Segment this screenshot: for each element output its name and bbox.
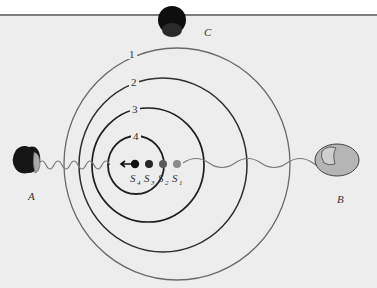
svg-text:S: S (130, 172, 136, 184)
source-label-s1: S 1 (172, 172, 183, 187)
wavefront-label-3: 3 (132, 103, 138, 115)
observer-a-head-icon (13, 146, 41, 173)
observer-c-head-icon (158, 6, 186, 37)
svg-text:2: 2 (165, 179, 169, 187)
wave-to-A (38, 161, 110, 169)
wavefront-label-2: 2 (131, 76, 137, 88)
source-label-s3: S 3 (144, 172, 155, 187)
diagram-canvas: 1 2 3 4 S 4 S 3 S 2 S 1 (0, 0, 377, 288)
wavefront-label-1: 1 (129, 48, 135, 60)
observer-a-label: A (27, 190, 35, 202)
source-label-s4: S 4 (130, 172, 141, 187)
svg-text:3: 3 (150, 179, 155, 187)
source-dot-s1 (173, 160, 181, 168)
doppler-diagram: 1 2 3 4 S 4 S 3 S 2 S 1 (0, 0, 377, 288)
source-dot-s2 (159, 160, 167, 168)
observer-b-label: B (337, 193, 344, 205)
svg-text:S: S (158, 172, 164, 184)
wavefront-label-4: 4 (133, 130, 139, 142)
observer-c-label: C (204, 26, 212, 38)
svg-text:S: S (144, 172, 150, 184)
source-dot-s4 (131, 160, 139, 168)
motion-arrow-icon (121, 161, 131, 167)
svg-text:4: 4 (137, 179, 141, 187)
svg-text:S: S (172, 172, 178, 184)
observer-b-head-icon (315, 144, 359, 176)
source-dot-s3 (145, 160, 153, 168)
svg-text:1: 1 (179, 179, 183, 187)
